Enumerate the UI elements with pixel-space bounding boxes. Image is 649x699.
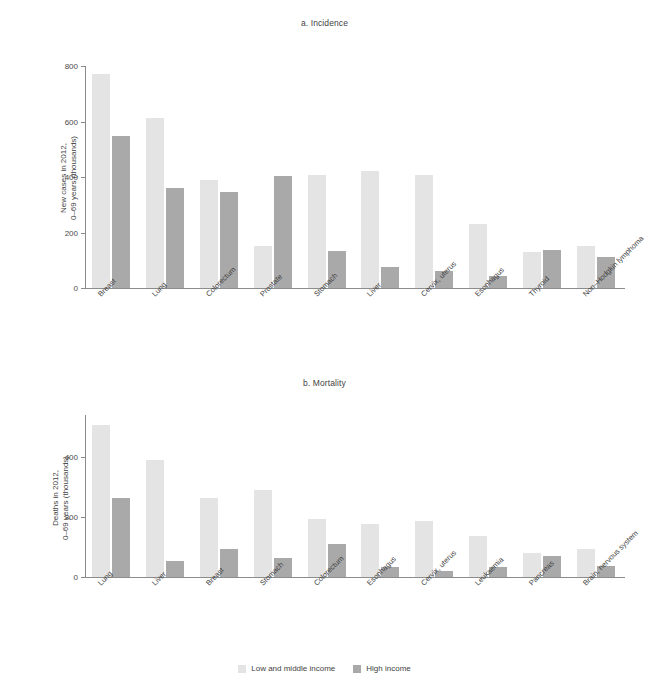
bar-mortality-0-high-income (112, 498, 130, 577)
bar-mortality-3-low-income (254, 490, 272, 577)
plot-area-mortality: 0200400LungLiverBreastStomachColorectumE… (85, 415, 625, 578)
bar-group-incidence-4: Stomach (308, 66, 346, 288)
bar-incidence-1-high-income (166, 188, 184, 288)
bar-group-mortality-6: Cervix, uterus (415, 415, 453, 577)
bar-group-incidence-0: Breast (92, 66, 130, 288)
bar-group-mortality-9: Brain, nervous system (577, 415, 615, 577)
bar-incidence-5-high-income (381, 267, 399, 288)
chart-legend: Low and middle income High income (0, 664, 649, 673)
bar-group-incidence-1: Lung (146, 66, 184, 288)
bar-incidence-2-low-income (200, 180, 218, 288)
bar-group-mortality-8: Pancreas (523, 415, 561, 577)
bar-group-incidence-8: Thyroid (523, 66, 561, 288)
bar-group-mortality-5: Esophagus (361, 415, 399, 577)
bar-group-incidence-3: Prostate (254, 66, 292, 288)
y-axis-label-incidence-0: 0 (74, 284, 78, 293)
bar-group-mortality-1: Liver (146, 415, 184, 577)
y-axis-label-incidence-400: 400 (65, 173, 78, 182)
y-axis-title-line2: 0–69 years (thousands) (61, 456, 70, 540)
bar-incidence-7-low-income (469, 224, 487, 288)
y-axis-tick-incidence-600 (81, 122, 86, 123)
y-axis-tick-incidence-800 (81, 66, 86, 67)
bar-mortality-1-high-income (166, 561, 184, 578)
y-axis-title-mortality: Deaths in 2012, 0–69 years (thousands) (51, 423, 71, 573)
chart-panel-incidence: a. Incidence New cases in 2012, 0–69 yea… (0, 18, 649, 378)
bar-group-incidence-2: Colorectum (200, 66, 238, 288)
y-axis-label-mortality-0: 0 (74, 573, 78, 582)
bar-incidence-3-high-income (274, 176, 292, 288)
y-axis-tick-incidence-400 (81, 177, 86, 178)
y-axis-tick-incidence-0 (81, 288, 86, 289)
y-axis-tick-mortality-0 (81, 577, 86, 578)
bar-mortality-2-low-income (200, 498, 218, 577)
bar-incidence-0-high-income (112, 136, 130, 288)
y-axis-label-mortality-200: 200 (65, 513, 78, 522)
bar-group-mortality-4: Colorectum (308, 415, 346, 577)
legend-swatch-high-income (353, 665, 361, 673)
bar-incidence-6-low-income (415, 175, 433, 288)
chart-panel-mortality: b. Mortality Deaths in 2012, 0–69 years … (0, 378, 649, 668)
y-axis-label-incidence-800: 800 (65, 62, 78, 71)
legend-item-low-income: Low and middle income (238, 664, 335, 673)
bar-incidence-0-low-income (92, 74, 110, 288)
bar-group-mortality-3: Stomach (254, 415, 292, 577)
bar-group-incidence-9: Non–Hodgkin lymphoma (577, 66, 615, 288)
chart-title-mortality: b. Mortality (0, 378, 649, 388)
legend-label-high-income: High income (366, 664, 410, 673)
bar-incidence-1-low-income (146, 118, 164, 288)
plot-area-incidence: 0200400600800BreastLungColorectumProstat… (85, 66, 625, 289)
legend-swatch-low-income (238, 665, 246, 673)
bar-group-incidence-5: Liver (361, 66, 399, 288)
legend-label-low-income: Low and middle income (251, 664, 335, 673)
y-axis-title-line1: Deaths in 2012, (51, 470, 60, 526)
bar-group-mortality-2: Breast (200, 415, 238, 577)
bar-mortality-1-low-income (146, 460, 164, 577)
chart-title-incidence: a. Incidence (0, 18, 649, 28)
bar-group-incidence-6: Cervix, uterus (415, 66, 453, 288)
legend-item-high-income: High income (353, 664, 410, 673)
y-axis-label-mortality-400: 400 (65, 453, 78, 462)
y-axis-tick-mortality-400 (81, 457, 86, 458)
bar-mortality-0-low-income (92, 425, 110, 577)
y-axis-tick-mortality-200 (81, 517, 86, 518)
y-axis-label-incidence-200: 200 (65, 228, 78, 237)
y-axis-tick-incidence-200 (81, 233, 86, 234)
y-axis-label-incidence-600: 600 (65, 117, 78, 126)
bar-group-mortality-0: Lung (92, 415, 130, 577)
bar-incidence-5-low-income (361, 171, 379, 288)
bar-group-incidence-7: Esophagus (469, 66, 507, 288)
bar-incidence-4-low-income (308, 175, 326, 288)
bar-group-mortality-7: Leukaemia (469, 415, 507, 577)
figure-container: a. Incidence New cases in 2012, 0–69 yea… (0, 0, 649, 699)
